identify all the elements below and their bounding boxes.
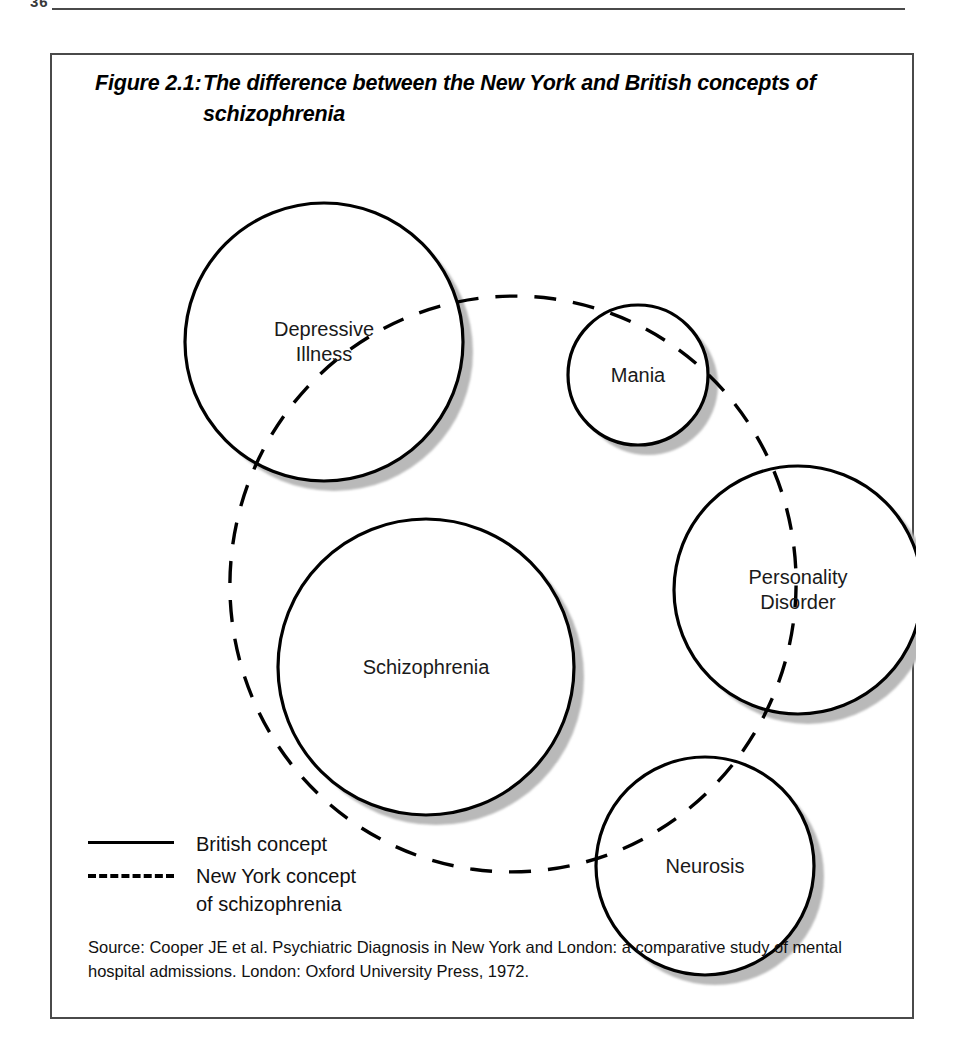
dashed-line-icon [88, 874, 174, 878]
legend-label-new-york-concept: New York concept of schizophrenia [196, 862, 418, 918]
legend-item-british-concept: British concept [88, 830, 418, 862]
circle-depressive-illness [185, 203, 463, 481]
circle-schizophrenia [278, 519, 574, 815]
header-rule [52, 8, 905, 10]
legend-item-new-york-concept: New York concept of schizophrenia [88, 862, 418, 918]
legend-label-british-concept: British concept [196, 830, 418, 858]
circle-mania [568, 305, 708, 445]
figure-frame: Figure 2.1:The difference between the Ne… [50, 53, 914, 1019]
page-number: 36 [30, 0, 80, 8]
source-note: Source: Cooper JE et al. Psychiatric Dia… [88, 935, 878, 983]
solid-line-icon [88, 841, 174, 844]
legend: British concept New York concept of schi… [88, 830, 418, 918]
